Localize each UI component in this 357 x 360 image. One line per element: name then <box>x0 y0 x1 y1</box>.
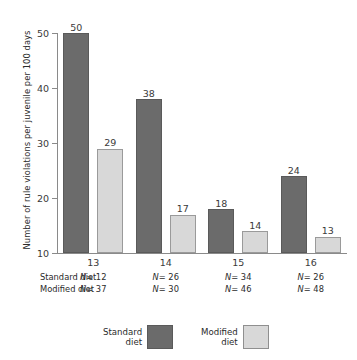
y-axis-tick-label: 30 <box>27 138 49 149</box>
plot-area: 1020304050 5029381718142413 13141516 <box>57 33 347 253</box>
sample-size-cell: N= 37 <box>63 284 123 294</box>
x-axis-tick-label: 13 <box>87 257 99 268</box>
y-axis-tick <box>52 33 57 34</box>
bar-standard-15: 18 <box>208 209 234 253</box>
sample-size-cell: N= 30 <box>136 284 196 294</box>
legend-swatch-modified-diet <box>243 325 269 349</box>
legend-label-modified-diet: Modified diet <box>201 327 238 348</box>
y-axis-tick <box>52 198 57 199</box>
y-axis-tick <box>52 253 57 254</box>
x-axis-line <box>57 253 347 254</box>
bar-value-label: 13 <box>322 225 334 236</box>
x-axis-tick-label: 15 <box>232 257 244 268</box>
bar-modified-15: 14 <box>242 231 268 253</box>
bar-value-label: 38 <box>143 88 155 99</box>
legend-swatch-standard-diet <box>147 325 173 349</box>
x-axis-tick-label: 14 <box>160 257 172 268</box>
y-axis-tick <box>52 88 57 89</box>
y-axis-line <box>57 33 58 254</box>
bar-value-label: 24 <box>288 165 300 176</box>
chart-legend: Standard diet Modified diet <box>0 322 357 356</box>
y-axis-tick-label: 50 <box>27 28 49 39</box>
sample-size-cell: N= 26 <box>281 272 341 282</box>
legend-item-modified-diet: Modified diet <box>201 322 269 352</box>
y-axis-tick <box>52 143 57 144</box>
bar-value-label: 17 <box>177 203 189 214</box>
sample-size-cell: N= 26 <box>136 272 196 282</box>
sample-size-cell: N= 48 <box>281 284 341 294</box>
bar-standard-13: 50 <box>63 33 89 253</box>
bar-modified-13: 29 <box>97 149 123 254</box>
bar-value-label: 18 <box>215 198 227 209</box>
bar-modified-14: 17 <box>170 215 196 254</box>
sample-size-table: Standard diet N= 12N= 26N= 34N= 26 Modif… <box>0 272 357 304</box>
table-row: Modified diet N= 37N= 30N= 46N= 48 <box>0 284 357 297</box>
y-axis-tick-label: 10 <box>27 248 49 259</box>
bar-value-label: 14 <box>249 220 261 231</box>
sample-size-cell: N= 46 <box>208 284 268 294</box>
bar-standard-14: 38 <box>136 99 162 253</box>
y-axis-tick-label: 20 <box>27 193 49 204</box>
y-axis-tick-label: 40 <box>27 83 49 94</box>
legend-item-standard-diet: Standard diet <box>103 322 173 352</box>
bar-modified-16: 13 <box>315 237 341 254</box>
bar-value-label: 29 <box>104 137 116 148</box>
bar-standard-16: 24 <box>281 176 307 253</box>
sample-size-cell: N= 12 <box>63 272 123 282</box>
legend-label-standard-diet: Standard diet <box>103 327 142 348</box>
sample-size-cell: N= 34 <box>208 272 268 282</box>
bar-value-label: 50 <box>70 22 82 33</box>
bar-chart: Number of rule violations per juvenile p… <box>0 0 357 360</box>
x-axis-tick-label: 16 <box>305 257 317 268</box>
